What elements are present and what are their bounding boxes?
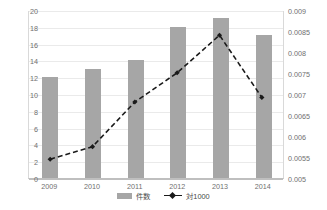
legend-item-line[interactable]: 対1000 (164, 190, 209, 201)
y-axis-right-tick-0.007: 0.007 (288, 91, 324, 100)
y-axis-right-tick-0.0065: 0.0065 (288, 112, 324, 121)
y-axis-right-tick-0.005: 0.005 (288, 175, 324, 184)
y-axis-right-tick-0.0085: 0.0085 (288, 28, 324, 37)
chart-legend: 件数 対1000 (0, 190, 327, 201)
legend-label-bar: 件数 (136, 190, 150, 201)
line-swatch-icon (164, 192, 182, 199)
legend-item-bar[interactable]: 件数 (117, 190, 150, 201)
y-axis-right-tick-0.006: 0.006 (288, 133, 324, 142)
line-series-per-1000 (29, 11, 283, 178)
y-axis-right-tick-0.009: 0.009 (288, 7, 324, 16)
y-axis-right-tick-0.0055: 0.0055 (288, 154, 324, 163)
line-path (50, 35, 262, 159)
y-axis-right-tick-0.008: 0.008 (288, 49, 324, 58)
line-marker-2009[interactable] (48, 157, 53, 162)
line-marker-2010[interactable] (90, 144, 95, 149)
chart-container: 024681012141618200.0050.00550.0060.00650… (0, 0, 327, 210)
legend-label-line: 対1000 (186, 190, 209, 201)
gridline (29, 179, 283, 180)
plot-area (28, 11, 284, 179)
y-axis-right-tick-0.0075: 0.0075 (288, 70, 324, 79)
bar-swatch-icon (117, 193, 132, 199)
